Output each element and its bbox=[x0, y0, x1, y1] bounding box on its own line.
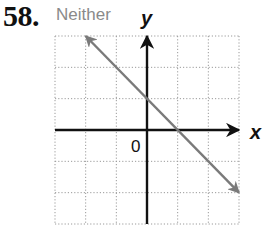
coordinate-graph: y x 0 bbox=[0, 0, 267, 235]
axes bbox=[55, 36, 239, 224]
x-axis-label: x bbox=[249, 121, 262, 143]
plotted-line bbox=[86, 36, 239, 193]
origin-label: 0 bbox=[131, 137, 140, 156]
y-axis-label: y bbox=[140, 7, 153, 29]
line-y-equals-negative-x-plus-1 bbox=[86, 36, 239, 193]
